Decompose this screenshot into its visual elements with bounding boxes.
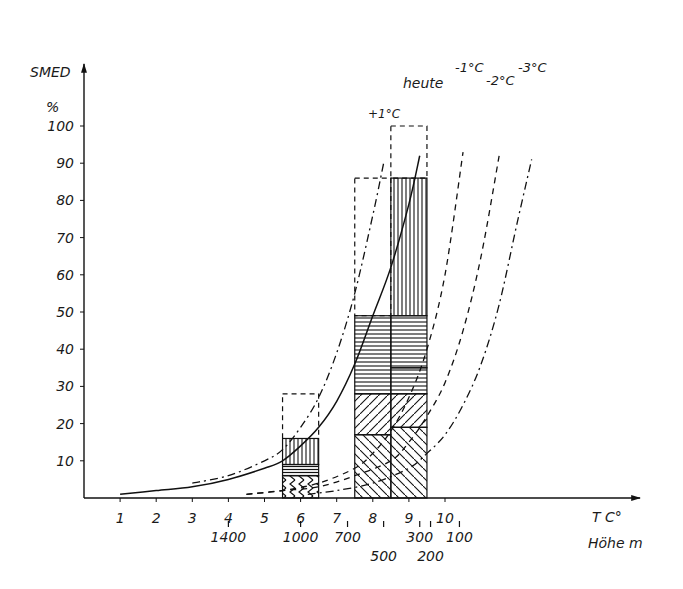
bar-segment <box>355 394 391 435</box>
altitude-tick-label: 100 <box>446 529 473 545</box>
y-tick-label: 100 <box>47 118 74 134</box>
bar-segment <box>355 316 391 394</box>
x-axis-title: T C° <box>592 509 622 525</box>
y-tick-label: 10 <box>56 453 74 469</box>
x-tick-label: 9 <box>404 510 413 526</box>
y-tick-label: 90 <box>56 155 74 171</box>
bar-dashed-extension <box>283 394 319 439</box>
bar-segment <box>391 178 427 316</box>
y-tick-label: 40 <box>56 341 74 357</box>
bar-segment <box>355 435 391 498</box>
x-tick-label: 8 <box>368 510 377 526</box>
y-tick-label: 60 <box>56 267 74 283</box>
bar <box>391 126 427 498</box>
altitude-tick-label: 200 <box>417 548 444 564</box>
y-tick-label: 30 <box>56 378 74 394</box>
altitude-ticks: 14001000700500300200100 <box>211 521 473 564</box>
bar-segment <box>283 438 319 464</box>
label-heute: heute <box>403 75 443 91</box>
y-tick-label: 50 <box>56 304 74 320</box>
bar-dashed-extension <box>355 178 391 316</box>
label-plus1: +1°C <box>368 107 401 121</box>
altitude-tick-label: 500 <box>370 548 397 564</box>
altitude-tick-label: 1400 <box>211 529 247 545</box>
label-minus2: -2°C <box>486 73 515 88</box>
label-minus3: -3°C <box>518 60 547 75</box>
bar-segment <box>391 427 427 498</box>
y-axis-title: SMED <box>30 64 71 80</box>
x-tick-label: 7 <box>332 510 341 526</box>
y-axis-unit: % <box>46 99 59 115</box>
bar-segment <box>391 316 427 368</box>
curves <box>120 152 532 494</box>
x-tick-label: 10 <box>436 510 454 526</box>
y-tick-label: 80 <box>56 192 74 208</box>
x-ticks: 12345678910 <box>116 498 454 526</box>
bar-segment <box>283 476 319 498</box>
bar-dashed-extension <box>391 126 427 178</box>
x-tick-label: 5 <box>260 510 269 526</box>
bar <box>355 178 391 498</box>
altitude-tick-label: 700 <box>334 529 361 545</box>
bar-segment <box>283 465 319 476</box>
chart: 102030405060708090100 12345678910 140010… <box>0 0 683 589</box>
y-ticks: 102030405060708090100 <box>47 118 84 469</box>
bar-segment <box>391 368 427 394</box>
altitude-tick-label: 300 <box>406 529 433 545</box>
x-tick-label: 2 <box>152 510 161 526</box>
x-tick-label: 1 <box>116 510 125 526</box>
altitude-tick-label: 1000 <box>283 529 319 545</box>
y-tick-label: 20 <box>56 416 74 432</box>
label-minus1: -1°C <box>455 60 484 75</box>
y-tick-label: 70 <box>56 230 74 246</box>
x-axis-secondary-title: Höhe m <box>588 535 643 551</box>
x-tick-label: 3 <box>188 510 197 526</box>
